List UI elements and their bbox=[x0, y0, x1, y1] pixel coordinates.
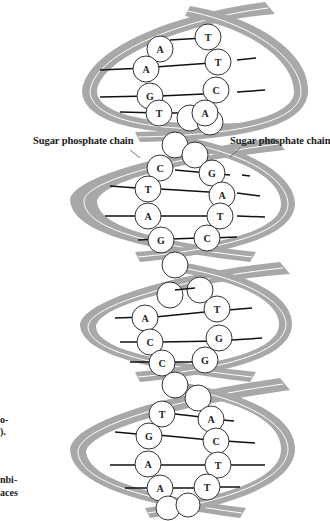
helix-turn-1: A T A T G C T A bbox=[82, 2, 308, 142]
svg-text:T: T bbox=[217, 211, 224, 222]
svg-text:C: C bbox=[146, 337, 153, 348]
svg-text:T: T bbox=[156, 108, 163, 119]
svg-text:A: A bbox=[156, 483, 164, 494]
svg-text:C: C bbox=[156, 163, 163, 174]
svg-text:A: A bbox=[201, 108, 209, 119]
svg-text:T: T bbox=[204, 482, 211, 493]
sugar-phosphate-chain-label-left: Sugar phosphate chain bbox=[33, 135, 133, 146]
svg-text:G: G bbox=[215, 333, 223, 344]
svg-text:G: G bbox=[208, 168, 216, 179]
svg-text:T: T bbox=[215, 57, 222, 68]
svg-text:G: G bbox=[145, 431, 153, 442]
svg-text:C: C bbox=[158, 358, 165, 369]
svg-text:A: A bbox=[144, 459, 152, 470]
sugar-phosphate-chain-label-right: Sugar phosphate chain bbox=[230, 135, 330, 146]
cropped-caption-fragment-1: o- bbox=[0, 414, 8, 425]
cropped-caption-fragment-2: ). bbox=[0, 426, 6, 437]
left-label-leader bbox=[130, 150, 140, 158]
svg-text:A: A bbox=[218, 190, 226, 201]
svg-text:C: C bbox=[212, 85, 219, 96]
svg-text:T: T bbox=[145, 184, 152, 195]
svg-text:G: G bbox=[201, 355, 209, 366]
helix-turn-2: C G T A A T G C bbox=[70, 132, 295, 262]
svg-text:C: C bbox=[203, 233, 210, 244]
svg-text:C: C bbox=[212, 436, 219, 447]
svg-text:T: T bbox=[214, 304, 221, 315]
cropped-caption-fragment-3: nbi- bbox=[0, 474, 17, 485]
helix-turn-3: A T C G C G bbox=[80, 252, 292, 382]
svg-text:A: A bbox=[142, 64, 150, 75]
svg-text:A: A bbox=[144, 211, 152, 222]
cropped-caption-fragment-4: aces bbox=[0, 487, 18, 498]
svg-text:G: G bbox=[157, 235, 165, 246]
svg-text:G: G bbox=[146, 91, 154, 102]
svg-text:T: T bbox=[205, 32, 212, 43]
helix-turn-4: T A G C A T A T bbox=[70, 372, 295, 520]
svg-text:A: A bbox=[207, 414, 215, 425]
svg-text:T: T bbox=[215, 460, 222, 471]
svg-text:T: T bbox=[159, 409, 166, 420]
svg-text:A: A bbox=[156, 44, 164, 55]
svg-text:A: A bbox=[141, 313, 149, 324]
